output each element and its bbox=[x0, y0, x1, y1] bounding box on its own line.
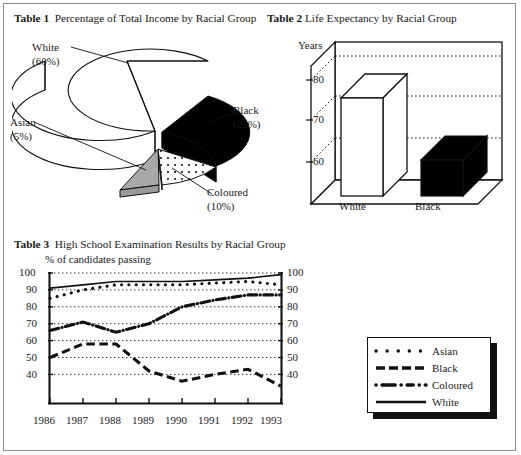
legend-key-solid-icon bbox=[374, 394, 428, 410]
line-ytick-right-70: 70 bbox=[287, 317, 298, 331]
line-ytick-left-60: 60 bbox=[26, 334, 37, 348]
pie-label-black: Black (25%) bbox=[233, 104, 261, 131]
line-ytick-right-50: 50 bbox=[287, 351, 298, 365]
line-ytick-left-40: 40 bbox=[26, 368, 37, 382]
pie-label-asian: Asian (5%) bbox=[10, 116, 36, 143]
line-xtick-1986: 1986 bbox=[33, 414, 55, 428]
chart-legend: Asian Black Coloured White bbox=[367, 337, 491, 413]
bar-xtick-white: White bbox=[339, 200, 366, 214]
table3-heading: Table 3 High School Examination Results … bbox=[14, 238, 286, 251]
legend-label-black: Black bbox=[432, 360, 458, 376]
table1-number: Table 1 bbox=[14, 12, 49, 24]
line-ytick-right-40: 40 bbox=[287, 368, 298, 382]
line-ytick-right-60: 60 bbox=[287, 334, 298, 348]
exam-results-line-chart bbox=[48, 272, 298, 412]
line-xtick-1988: 1988 bbox=[99, 414, 121, 428]
legend-item-black[interactable]: Black bbox=[374, 360, 486, 376]
line-xtick-1987: 1987 bbox=[66, 414, 88, 428]
life-expectancy-bar-chart bbox=[295, 34, 510, 224]
line-ytick-right-100: 100 bbox=[287, 266, 304, 280]
legend-item-coloured[interactable]: Coloured bbox=[374, 377, 486, 393]
line-xtick-1993: 1993 bbox=[260, 414, 282, 428]
table2-number: Table 2 bbox=[267, 12, 302, 24]
legend-item-asian[interactable]: Asian bbox=[374, 343, 486, 359]
legend-label-white: White bbox=[432, 394, 459, 410]
table2-title: Life Expectancy by Racial Group bbox=[305, 12, 457, 24]
pie-label-coloured: Coloured (10%) bbox=[207, 186, 248, 213]
line-xtick-1991: 1991 bbox=[198, 414, 220, 428]
table1-heading: Table 1 Percentage of Total Income by Ra… bbox=[14, 12, 256, 25]
bar-axis-title: Years bbox=[298, 39, 323, 53]
line-ytick-left-90: 90 bbox=[26, 283, 37, 297]
line-xtick-1992: 1992 bbox=[231, 414, 253, 428]
legend-key-dotted-icon bbox=[374, 343, 428, 359]
line-ytick-left-70: 70 bbox=[26, 317, 37, 331]
legend-label-asian: Asian bbox=[432, 343, 458, 359]
table3-title: High School Examination Results by Racia… bbox=[55, 238, 286, 250]
legend-key-dashed-icon bbox=[374, 360, 428, 376]
line-ytick-left-50: 50 bbox=[26, 351, 37, 365]
line-ytick-left-100: 100 bbox=[19, 266, 36, 280]
table1-title: Percentage of Total Income by Racial Gro… bbox=[55, 12, 257, 24]
legend-key-dash-dot-icon bbox=[374, 377, 428, 393]
line-xtick-1989: 1989 bbox=[132, 414, 154, 428]
line-xtick-1990: 1990 bbox=[165, 414, 187, 428]
bar-xtick-black: Black bbox=[415, 200, 441, 214]
table3-number: Table 3 bbox=[14, 238, 49, 250]
table2-heading: Table 2 Life Expectancy by Racial Group bbox=[267, 12, 457, 25]
bar-white bbox=[341, 74, 407, 196]
pie-label-white: White (60%) bbox=[32, 41, 60, 68]
legend-label-coloured: Coloured bbox=[432, 377, 473, 393]
line-ytick-right-90: 90 bbox=[287, 283, 298, 297]
line-ytick-right-80: 80 bbox=[287, 300, 298, 314]
line-ytick-left-80: 80 bbox=[26, 300, 37, 314]
bar-ytick-80: 80 bbox=[313, 73, 324, 87]
bar-ytick-70: 70 bbox=[313, 113, 324, 127]
table3-subtitle: % of candidates passing bbox=[45, 253, 151, 265]
bar-ytick-60: 60 bbox=[313, 155, 324, 169]
legend-item-white[interactable]: White bbox=[374, 394, 486, 410]
